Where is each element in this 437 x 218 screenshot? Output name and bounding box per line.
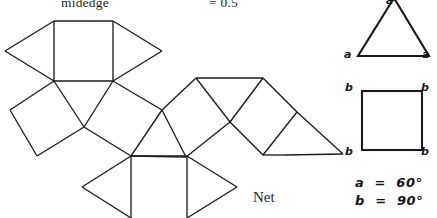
net-edge <box>186 122 230 157</box>
net-edge <box>37 127 84 156</box>
square-key-icon <box>362 91 422 150</box>
net-edge <box>263 112 297 155</box>
key-square-top-left-label: b <box>345 82 353 93</box>
net-edge <box>162 78 196 110</box>
net-edge <box>84 81 113 127</box>
key-shapes-group <box>358 0 429 150</box>
net-edge <box>285 154 343 155</box>
net-edge <box>230 122 263 155</box>
net-edge <box>131 110 162 156</box>
net-edge <box>187 187 237 218</box>
net-edge <box>113 81 162 110</box>
net-edge <box>10 81 54 110</box>
key-triangle-right-label: a <box>422 49 429 60</box>
figure-root: midedge = 0.5 a a a b b b b a = 60° b = … <box>0 0 437 218</box>
net-edge <box>297 112 343 154</box>
net-edge <box>113 51 162 81</box>
net-edge <box>113 21 162 51</box>
net-edge <box>162 110 186 157</box>
net-edge <box>263 78 297 112</box>
net-edge <box>54 81 84 127</box>
net-edge <box>187 156 237 187</box>
key-square-top-right-label: b <box>421 82 429 93</box>
net-caption: Net <box>253 190 275 205</box>
legend-angle-b: b = 90° <box>355 194 423 207</box>
net-edge <box>84 127 131 156</box>
key-square-bottom-right-label: b <box>421 146 429 157</box>
net-edge <box>5 51 54 81</box>
net-edge <box>82 187 131 218</box>
equilateral-triangle-key-icon <box>358 0 429 56</box>
key-triangle-left-label: a <box>344 49 351 60</box>
key-triangle-apex-label: a <box>386 0 393 6</box>
net-edge <box>5 21 54 51</box>
net-edge <box>10 110 37 156</box>
net-edge <box>230 78 263 122</box>
net-edge <box>196 78 230 122</box>
legend-angle-a: a = 60° <box>355 176 423 189</box>
net-edge <box>82 156 131 187</box>
key-square-bottom-left-label: b <box>345 146 353 157</box>
net-edge-group <box>5 21 343 218</box>
